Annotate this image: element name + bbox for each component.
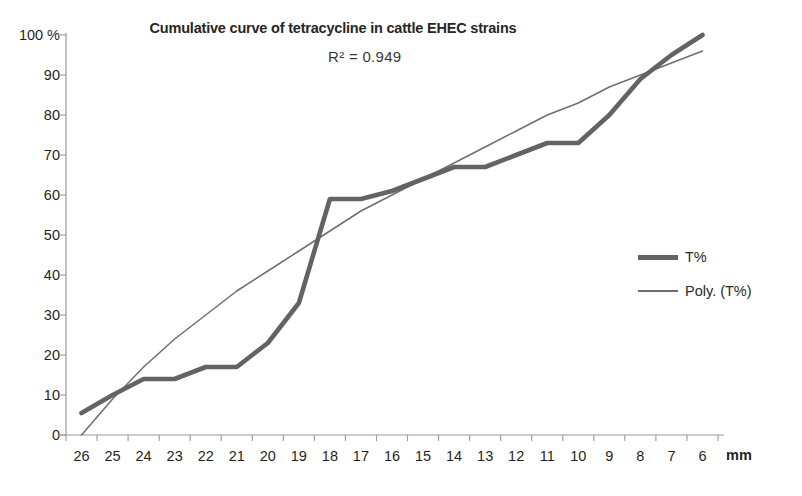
- y-axis-ticks: [60, 35, 66, 435]
- x-axis-tick-label: 13: [477, 448, 493, 464]
- legend-line-swatch-thick-icon: [638, 251, 678, 263]
- x-axis-tick-label: 9: [605, 448, 613, 464]
- x-axis-tick-label: 22: [198, 448, 214, 464]
- x-axis-tick-label: 14: [446, 448, 462, 464]
- x-axis-tick-label: 17: [353, 448, 369, 464]
- x-axis-tick-label: 26: [73, 448, 89, 464]
- x-axis-tick-label: 24: [136, 448, 152, 464]
- x-axis-tick-label: 18: [322, 448, 338, 464]
- legend-item-poly-trend: Poly. (T%): [638, 274, 752, 308]
- legend-label-poly-trend: Poly. (T%): [685, 283, 752, 299]
- legend-label-t-percent: T%: [685, 249, 707, 265]
- x-axis-tick-label: 23: [167, 448, 183, 464]
- x-axis-tick-label: 21: [229, 448, 245, 464]
- x-axis-tick-label: 15: [415, 448, 431, 464]
- x-axis-tick-label: 6: [698, 448, 706, 464]
- chart-container: Cumulative curve of tetracycline in catt…: [0, 0, 802, 496]
- x-axis-tick-label: 7: [667, 448, 675, 464]
- legend-line-swatch-thin-icon: [638, 285, 678, 297]
- x-axis-ticks: [66, 435, 718, 441]
- series-line-t-percent: [82, 35, 703, 413]
- axis-lines: [58, 33, 724, 435]
- x-axis-tick-label: 8: [636, 448, 644, 464]
- chart-legend: T% Poly. (T%): [638, 240, 752, 308]
- x-axis-tick-label: 19: [291, 448, 307, 464]
- x-axis-tick-label: 11: [540, 448, 555, 464]
- x-axis-tick-label: 25: [104, 448, 120, 464]
- x-axis-tick-label: 16: [384, 448, 400, 464]
- legend-item-t-percent: T%: [638, 240, 752, 274]
- x-axis-tick-label: 10: [570, 448, 586, 464]
- x-axis-tick-label: 12: [508, 448, 524, 464]
- x-axis-tick-label: 20: [260, 448, 276, 464]
